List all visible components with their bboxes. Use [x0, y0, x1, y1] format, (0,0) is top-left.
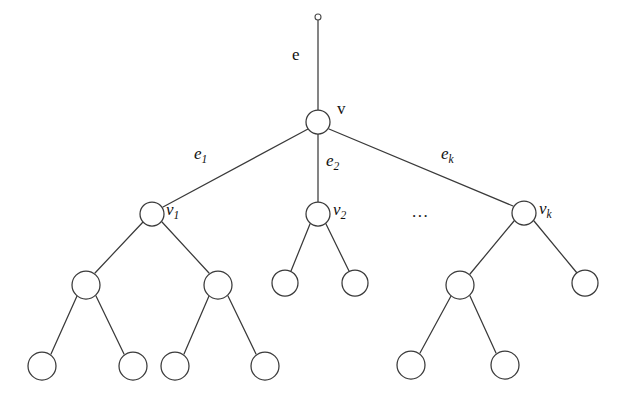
node-v: [306, 110, 330, 134]
edge-label-ek: ek: [441, 145, 454, 165]
edge-v2-left: [291, 224, 310, 271]
edge-vk-left: [470, 221, 514, 274]
vertex-label-v2-subscript: 2: [341, 209, 347, 221]
node-leaf-1: [28, 352, 56, 380]
vertex-label-v1-subscript: 1: [174, 209, 180, 221]
node-v2: [306, 202, 330, 226]
node-v1: [140, 202, 164, 226]
tree-diagram-figure: e v e1 e2 ek v1 v2 vk ...: [0, 0, 623, 407]
edge-v1-right: [162, 222, 209, 273]
edge-a2-left: [184, 296, 209, 354]
node-leaf-4: [251, 352, 279, 380]
ellipsis-label: ...: [412, 203, 429, 220]
edge-c1-right: [470, 296, 496, 353]
edge-a2-right: [228, 296, 256, 354]
node-vk-child-left: [446, 271, 474, 299]
vertex-label-v1-base: v: [166, 200, 174, 219]
vertex-label-vk-base: v: [539, 199, 547, 218]
edge-label-e: e: [292, 46, 300, 63]
node-leaf-2: [119, 352, 147, 380]
vertex-label-vk-subscript: k: [547, 208, 552, 220]
edge-a1-right: [96, 296, 124, 354]
edge-vk-right: [534, 221, 577, 273]
node-leaf-3: [161, 352, 189, 380]
edge-label-e2-subscript: 2: [334, 160, 340, 172]
edge-e1: [163, 129, 308, 207]
vertex-label-v2: v2: [333, 201, 346, 221]
edge-label-e2: e2: [326, 152, 339, 172]
edge-label-ek-subscript: k: [449, 153, 454, 165]
edge-label-e1-subscript: 1: [202, 153, 208, 165]
edge-label-e1-base: e: [194, 144, 202, 163]
node-v1-child-left: [72, 271, 100, 299]
edge-c1-left: [420, 296, 451, 353]
node-vk-leaf-right: [572, 270, 598, 296]
vertex-label-vk: vk: [539, 200, 552, 220]
node-group: [28, 14, 598, 380]
tree-graph-canvas: [0, 0, 623, 407]
edge-label-e2-base: e: [326, 151, 334, 170]
node-leaf-5: [397, 351, 425, 379]
node-v2-leaf-left: [272, 270, 298, 296]
edge-group: [51, 20, 577, 354]
node-vk: [512, 201, 536, 225]
node-leaf-6: [491, 351, 519, 379]
vertex-label-v2-base: v: [333, 200, 341, 219]
edge-v1-left: [95, 222, 143, 273]
node-root-tip: [315, 14, 321, 20]
vertex-label-v: v: [337, 100, 346, 117]
edge-a1-left: [51, 296, 77, 354]
edge-label-e1: e1: [194, 145, 207, 165]
edge-ek: [329, 129, 513, 206]
vertex-label-v1: v1: [166, 201, 179, 221]
node-v2-leaf-right: [342, 270, 368, 296]
edge-label-ek-base: e: [441, 144, 449, 163]
node-v1-child-right: [204, 271, 232, 299]
edge-v2-right: [326, 224, 349, 271]
